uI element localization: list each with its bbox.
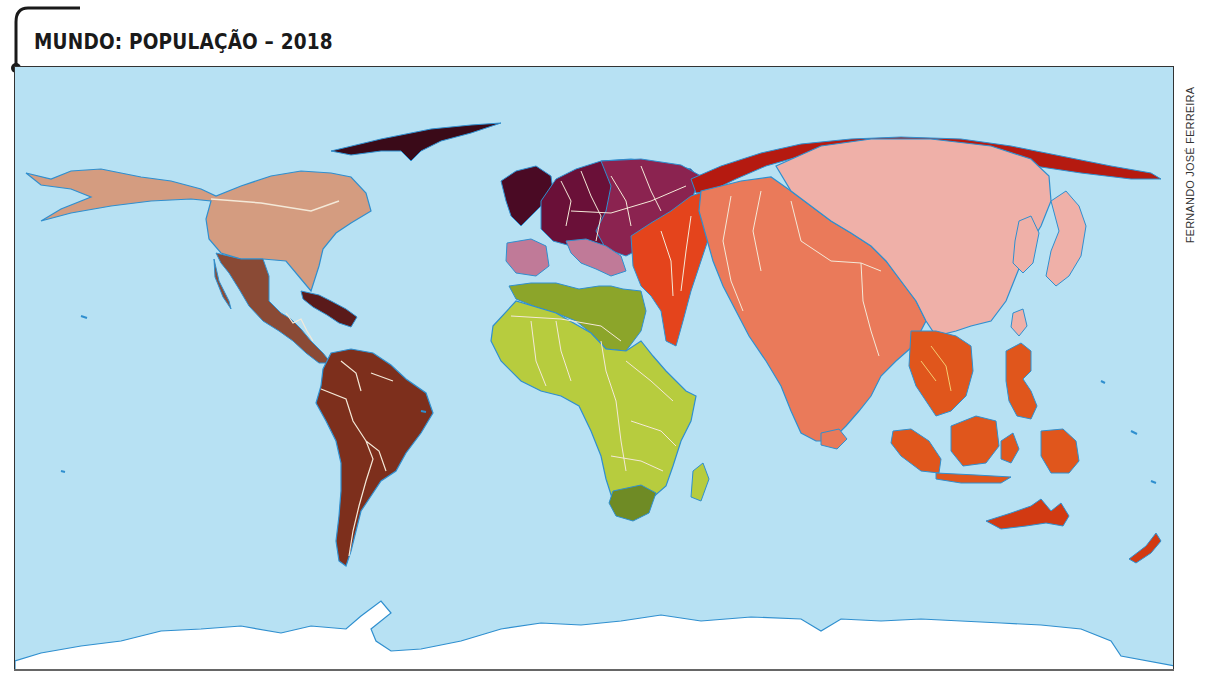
australia-region	[986, 499, 1069, 529]
author-credit-text: FERNANDO JOSÉ FERREIRA	[1184, 87, 1196, 244]
borneo-region	[951, 416, 999, 466]
new-zealand-region	[1129, 533, 1161, 563]
author-credit: FERNANDO JOSÉ FERREIRA	[1180, 70, 1200, 260]
new-guinea-region	[1041, 429, 1079, 473]
world-cartogram	[15, 67, 1174, 670]
java-region	[936, 473, 1011, 483]
southern-africa-region	[609, 485, 656, 521]
frame-bottom-shadow	[14, 669, 1174, 671]
sulawesi-region	[1001, 433, 1019, 463]
sri-lanka-region	[821, 429, 847, 449]
south-america-region	[316, 349, 433, 566]
map-frame	[14, 66, 1174, 670]
southern-europe-iberia	[506, 239, 549, 276]
southeast-asia-mainland-region	[909, 331, 973, 416]
taiwan-region	[1011, 309, 1027, 336]
sumatra-region	[891, 429, 941, 473]
north-america-region	[26, 169, 371, 291]
caribbean-region	[301, 291, 357, 327]
map-title: MUNDO: POPULAÇÃO – 2018	[34, 30, 333, 54]
philippines-region	[1006, 343, 1037, 419]
antarctica-region	[15, 601, 1174, 670]
japan-region	[1046, 191, 1086, 286]
madagascar-region	[691, 463, 709, 501]
greenland-region	[331, 123, 501, 161]
